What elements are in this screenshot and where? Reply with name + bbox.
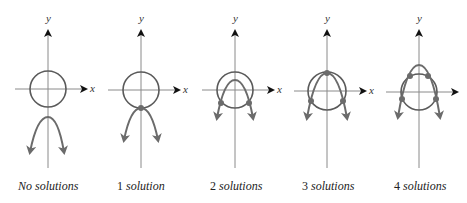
caption-one-solution: 1 solution: [117, 179, 165, 193]
intersection-point: [308, 98, 314, 104]
panel-one-solution: yx: [108, 12, 188, 168]
panel-two-solutions: yx: [202, 12, 282, 168]
panel-four-solutions: y: [386, 12, 457, 168]
x-axis-label: x: [368, 84, 374, 96]
parabola-left-branch: [30, 117, 48, 152]
parabola-right-branch: [327, 73, 347, 118]
caption-word: solutions: [308, 179, 355, 193]
x-axis-label: x: [89, 82, 95, 94]
y-axis-label: y: [138, 12, 144, 24]
caption-word: solutions: [32, 179, 79, 193]
intersection-point: [246, 100, 252, 106]
intersection-point: [433, 96, 439, 102]
parabola-left-branch: [124, 108, 141, 140]
parabola-right-branch: [48, 117, 64, 152]
parabola-left-branch: [307, 73, 327, 118]
caption-word: solution: [123, 179, 165, 193]
intersection-point: [425, 73, 431, 79]
intersection-point: [218, 100, 224, 106]
x-axis-label: x: [182, 83, 188, 95]
y-axis-label: y: [416, 12, 422, 24]
intersection-point: [138, 105, 144, 111]
caption-word: solutions: [400, 179, 447, 193]
caption-no-solutions: No solutions: [17, 179, 79, 193]
circle-parabola-diagram: yxyxyxyxy No solutions1 solution2 soluti…: [0, 0, 467, 203]
panel-three-solutions: yx: [294, 12, 374, 168]
caption-two-solutions: 2 solutions: [210, 179, 263, 193]
caption-three-solutions: 3 solutions: [302, 179, 355, 193]
parabola-right-branch: [141, 108, 158, 140]
panel-no-solutions: yx: [15, 12, 95, 168]
caption-word: solutions: [216, 179, 263, 193]
caption-count: No: [17, 179, 32, 193]
y-axis-label: y: [232, 12, 238, 24]
intersection-point: [340, 98, 346, 104]
intersection-point: [407, 73, 413, 79]
intersection-point: [324, 70, 330, 76]
intersection-point: [399, 96, 405, 102]
x-axis-label: x: [276, 83, 282, 95]
y-axis-label: y: [324, 12, 330, 24]
y-axis-label: y: [45, 12, 51, 24]
caption-four-solutions: 4 solutions: [394, 179, 447, 193]
